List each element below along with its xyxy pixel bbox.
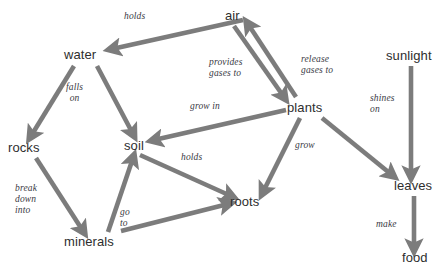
arrow-layer [0, 0, 441, 273]
node-rocks[interactable]: rocks [8, 141, 40, 154]
edge-plants-soil [154, 110, 286, 140]
edge-label-break-line1: break [15, 183, 37, 194]
node-leaves[interactable]: leaves [394, 179, 432, 192]
edge-label-break-line3: into [15, 205, 37, 216]
edge-label-break-down-into: break down into [15, 183, 37, 216]
edge-label-go-line1: go [120, 207, 130, 218]
node-water[interactable]: water [64, 48, 96, 61]
edge-label-shines-line1: shines [370, 93, 395, 104]
edge-label-go-line2: to [120, 218, 130, 229]
concept-map-diagram: air water sunlight plants rocks soil lea… [0, 0, 441, 273]
edge-label-grow-in: grow in [190, 101, 220, 112]
edge-label-release-line1: release [301, 54, 333, 65]
edge-plants-leaves [322, 118, 392, 175]
edge-label-holds-top: holds [124, 11, 145, 22]
edge-label-falls-line2: on [66, 93, 83, 104]
node-roots[interactable]: roots [230, 195, 259, 208]
node-air[interactable]: air [225, 9, 240, 22]
edge-label-release-gases-to: release gases to [301, 54, 333, 76]
edge-label-falls-on: falls on [66, 82, 83, 104]
edge-label-holds-mid: holds [181, 152, 202, 163]
edge-label-falls-line1: falls [66, 82, 83, 93]
edge-label-provides-line1: provides [209, 57, 243, 68]
edge-label-provides-line2: gases to [209, 68, 243, 79]
edge-minerals-roots [121, 204, 228, 231]
edge-air-water [112, 20, 243, 49]
edge-label-make: make [376, 219, 397, 230]
edge-rocks-minerals [36, 158, 83, 231]
edge-plants-air [248, 24, 296, 97]
node-sunlight[interactable]: sunlight [386, 49, 432, 62]
edge-water-soil [97, 66, 133, 134]
node-soil[interactable]: soil [124, 139, 144, 152]
edge-label-provides-gases-to: provides gases to [209, 57, 243, 79]
node-minerals[interactable]: minerals [64, 235, 114, 248]
edge-label-go-to: go to [120, 207, 130, 229]
edge-label-shines-line2: on [370, 104, 395, 115]
node-plants[interactable]: plants [287, 101, 322, 114]
edge-plants-roots [263, 118, 300, 192]
edge-label-release-line2: gases to [301, 65, 333, 76]
edge-label-shines-on: shines on [370, 93, 395, 115]
edge-label-grow: grow [295, 140, 315, 151]
node-food[interactable]: food [402, 251, 428, 264]
edge-label-break-line2: down [15, 194, 37, 205]
